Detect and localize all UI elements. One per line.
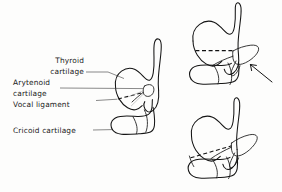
arytenoid-leader-line	[60, 88, 144, 89]
arytenoid-cartilage-label-line1: Arytenoid	[13, 78, 50, 87]
thyroid-leader-line	[86, 72, 124, 79]
vocal-ligament-leader-line	[96, 99, 117, 100]
thyroid-cartilage-outline	[115, 39, 161, 91]
larynx-cartilage-figure: Thyroid cartilage Arytenoid cartilage Vo…	[0, 0, 282, 192]
arytenoid-cartilage-outline	[143, 85, 154, 97]
cricoid-lamina-contour-br	[227, 157, 231, 179]
thyroid-cartilage-label-line2: cartilage	[50, 67, 84, 76]
cricoid-cartilage-label: Cricoid cartilage	[13, 126, 76, 135]
arytenoid-cartilage-label-line2: cartilage	[13, 89, 47, 98]
cricoid-cartilage-outline-br	[188, 157, 230, 173]
thyroid-lower-border-br	[192, 136, 221, 161]
cricoid-inner-contour-br	[213, 160, 218, 178]
thyroid-cartilage-outline-tr	[193, 3, 241, 55]
cricoid-lamina-contour	[144, 110, 147, 132]
arytenoid-cartilage-outline-br	[231, 134, 257, 156]
thyroid-cartilage-label-line1: Thyroid	[54, 56, 84, 65]
rotated-position-view	[188, 98, 257, 179]
cricoid-inner-contour	[133, 117, 137, 134]
neutral-position-view	[190, 3, 272, 85]
main-labeled-view: Thyroid cartilage Arytenoid cartilage Vo…	[13, 39, 161, 135]
arytenoid-cartilage-outline-tr	[233, 45, 259, 64]
vocal-process-br	[211, 147, 231, 158]
cricoid-inner-contour-tr	[214, 66, 219, 84]
vocal-ligament-label: Vocal ligament	[13, 100, 70, 109]
cricoid-arch-lower	[113, 107, 155, 134]
rotation-arrow-tr	[250, 65, 272, 83]
